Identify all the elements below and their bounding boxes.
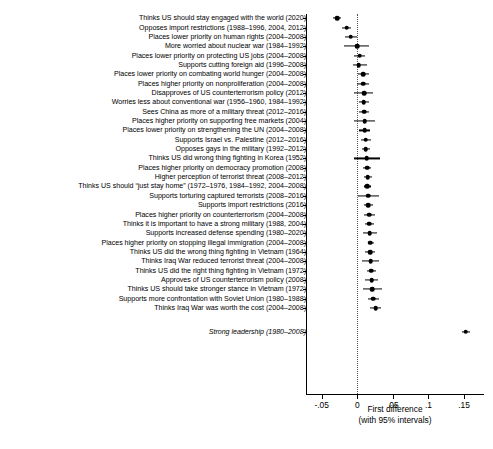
y-axis-tick	[303, 102, 307, 103]
row-label: Places higher priority on counterterrori…	[135, 211, 306, 219]
estimate-marker	[306, 201, 484, 210]
estimate-marker	[306, 210, 484, 219]
y-axis-tick	[303, 158, 307, 159]
y-axis-tick	[303, 271, 307, 272]
row-label: Places higher priority on stopping illeg…	[101, 239, 306, 247]
row-label: Thinks US did the right thing fighting i…	[135, 267, 306, 275]
estimate-marker	[306, 163, 484, 172]
point-estimate-dot	[348, 35, 353, 40]
estimate-marker	[306, 107, 484, 116]
point-estimate-dot	[366, 203, 371, 208]
point-estimate-dot	[368, 240, 373, 245]
point-estimate-dot	[365, 184, 370, 189]
y-axis-tick	[303, 187, 307, 188]
row-label: More worried about nuclear war (1984–199…	[165, 42, 306, 50]
row-label: Supports cutting foreign aid (1996–2008)	[178, 61, 306, 69]
estimate-marker	[306, 154, 484, 163]
estimate-marker	[306, 60, 484, 69]
row-label: Places higher priority on nonproliferati…	[138, 80, 306, 88]
y-axis-tick	[303, 93, 307, 94]
row-label: Worries less about conventional war (195…	[112, 98, 306, 106]
y-axis-tick	[303, 299, 307, 300]
row-label: Supports more confrontation with Soviet …	[119, 295, 306, 303]
row-label: Places lower priority on human rights (2…	[148, 33, 306, 41]
y-axis-tick	[303, 168, 307, 169]
estimate-marker	[306, 32, 484, 41]
y-axis-tick	[303, 177, 307, 178]
y-axis-tick	[303, 121, 307, 122]
estimate-marker	[306, 70, 484, 79]
row-label: Opposes gays in the military (1992–2012)	[175, 145, 306, 153]
y-axis-tick	[303, 112, 307, 113]
y-axis-tick	[303, 84, 307, 85]
y-axis-tick	[303, 28, 307, 29]
estimate-marker	[306, 229, 484, 238]
row-label: Supports Israel vs. Palestine (2012–2016…	[175, 136, 306, 144]
estimate-marker	[306, 266, 484, 275]
estimate-marker	[306, 219, 484, 228]
row-label: Thinks it is important to have a strong …	[123, 220, 306, 228]
y-axis-tick	[303, 65, 307, 66]
estimate-marker	[306, 303, 484, 312]
row-label: Thinks US did the wrong thing fighting i…	[130, 248, 306, 256]
y-axis-tick	[303, 252, 307, 253]
point-estimate-dot	[364, 147, 369, 152]
x-axis-label: First difference (with 95% intervals)	[306, 404, 484, 425]
estimate-marker	[306, 275, 484, 284]
row-label: Supports torturing captured terrorists (…	[149, 192, 306, 200]
estimate-marker	[306, 88, 484, 97]
point-estimate-dot	[364, 137, 369, 142]
point-estimate-dot	[464, 330, 469, 335]
point-estimate-dot	[335, 16, 340, 21]
point-estimate-dot	[365, 175, 370, 180]
estimate-marker	[306, 294, 484, 303]
point-estimate-dot	[362, 109, 367, 114]
estimate-marker	[306, 116, 484, 125]
x-axis-tick	[464, 395, 465, 399]
x-axis-tick	[428, 395, 429, 399]
row-label: Thinks US should stay engaged with the w…	[139, 14, 306, 22]
y-axis-tick	[303, 149, 307, 150]
y-axis-tick	[303, 215, 307, 216]
y-axis-tick	[303, 233, 307, 234]
point-estimate-dot	[369, 268, 374, 273]
y-axis-tick	[303, 289, 307, 290]
y-axis-tick	[303, 56, 307, 57]
point-estimate-dot	[373, 306, 378, 311]
point-estimate-dot	[365, 156, 370, 161]
row-label: Places lower priority on combating world…	[114, 70, 306, 78]
y-axis-tick	[303, 224, 307, 225]
x-axis-line	[306, 394, 484, 395]
estimate-marker	[306, 126, 484, 135]
y-axis-tick	[303, 18, 307, 19]
row-label: Thinks US did wrong thing fighting in Ko…	[148, 154, 306, 162]
row-label: Thinks US should “just stay home” (1972–…	[78, 182, 306, 190]
estimate-marker	[306, 285, 484, 294]
row-label: Thinks US should take stronger stance in…	[127, 285, 306, 293]
row-label: Thinks Iraq War was worth the cost (2004…	[154, 304, 306, 312]
x-axis-tick	[322, 395, 323, 399]
point-estimate-dot	[367, 231, 372, 236]
point-estimate-dot	[371, 296, 376, 301]
estimate-marker	[306, 79, 484, 88]
row-label: Supports increased defense spending (198…	[146, 229, 306, 237]
row-label: Supports import restrictions (2016)	[198, 201, 306, 209]
row-label: Sees China as more of a military threat …	[142, 108, 306, 116]
point-estimate-dot	[368, 259, 373, 264]
y-axis-tick	[303, 205, 307, 206]
estimate-marker	[306, 182, 484, 191]
row-label: Places lower priority on strengthening t…	[123, 126, 306, 134]
estimate-marker	[306, 42, 484, 51]
plot-panel: -.050.05.1.15	[306, 14, 484, 394]
y-axis-tick	[303, 130, 307, 131]
x-axis-tick	[393, 395, 394, 399]
estimate-marker	[306, 23, 484, 32]
point-estimate-dot	[361, 72, 366, 77]
point-estimate-dot	[357, 53, 362, 58]
point-estimate-dot	[361, 81, 366, 86]
point-estimate-dot	[344, 25, 349, 30]
y-axis-tick	[303, 140, 307, 141]
point-estimate-dot	[362, 128, 367, 133]
row-label: Approves of US counterterrorism policy (…	[161, 276, 306, 284]
coefficient-plot: Thinks US should stay engaged with the w…	[0, 0, 493, 449]
